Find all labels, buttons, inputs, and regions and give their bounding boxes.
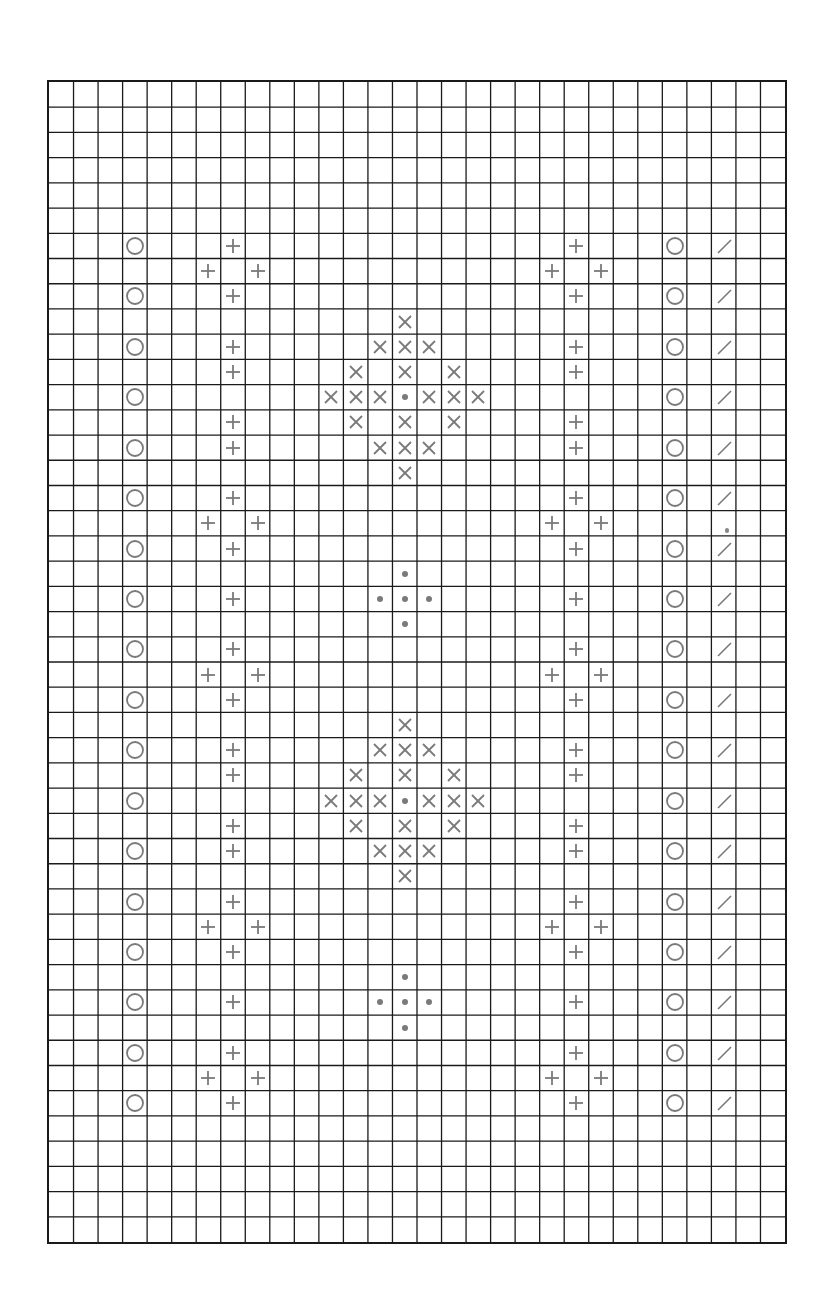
plus-icon	[564, 334, 589, 359]
circle-icon	[123, 485, 148, 510]
cross-icon	[392, 334, 417, 359]
cross-icon	[392, 309, 417, 334]
plus-icon	[564, 485, 589, 510]
plus-icon	[196, 662, 221, 687]
slash-icon	[711, 586, 736, 611]
plus-icon	[564, 738, 589, 763]
plus-icon	[245, 259, 270, 284]
circle-icon	[662, 637, 687, 662]
slash-icon	[711, 1091, 736, 1116]
circle-icon	[662, 1040, 687, 1065]
plus-icon	[540, 259, 565, 284]
slash-icon	[711, 435, 736, 460]
cross-icon	[392, 839, 417, 864]
plus-icon	[540, 1065, 565, 1090]
cross-icon	[417, 738, 442, 763]
slash-icon	[711, 334, 736, 359]
cross-icon	[392, 813, 417, 838]
circle-icon	[123, 536, 148, 561]
circle-icon	[123, 889, 148, 914]
plus-icon	[540, 662, 565, 687]
dot-icon	[392, 990, 417, 1015]
slash-icon	[711, 284, 736, 309]
dot-icon	[392, 788, 417, 813]
circle-icon	[123, 738, 148, 763]
plus-icon	[221, 889, 246, 914]
slash-icon	[711, 939, 736, 964]
plus-icon	[564, 1091, 589, 1116]
cross-icon	[368, 385, 393, 410]
slash-icon	[711, 738, 736, 763]
dot-icon	[392, 586, 417, 611]
slash-icon	[711, 889, 736, 914]
cross-icon	[343, 385, 368, 410]
plus-icon	[564, 839, 589, 864]
plus-icon	[564, 410, 589, 435]
plus-icon	[564, 233, 589, 258]
plus-icon	[564, 1040, 589, 1065]
dot-icon	[392, 385, 417, 410]
circle-icon	[662, 284, 687, 309]
plus-icon	[221, 410, 246, 435]
cross-icon	[442, 813, 467, 838]
circle-icon	[123, 1040, 148, 1065]
cross-icon	[442, 788, 467, 813]
plus-icon	[564, 586, 589, 611]
circle-icon	[123, 990, 148, 1015]
cross-icon	[442, 410, 467, 435]
circle-icon	[123, 1091, 148, 1116]
slash-icon	[711, 839, 736, 864]
cross-icon	[343, 763, 368, 788]
circle-icon	[123, 334, 148, 359]
cross-icon	[343, 813, 368, 838]
plus-icon	[221, 763, 246, 788]
plus-icon	[540, 511, 565, 536]
cross-icon	[392, 410, 417, 435]
plus-icon	[221, 536, 246, 561]
circle-icon	[662, 788, 687, 813]
circle-icon	[123, 586, 148, 611]
circle-icon	[662, 536, 687, 561]
plus-icon	[221, 939, 246, 964]
cross-icon	[417, 334, 442, 359]
circle-icon	[662, 839, 687, 864]
plus-icon	[221, 284, 246, 309]
cross-icon	[392, 712, 417, 737]
plus-icon	[564, 763, 589, 788]
circle-icon	[123, 687, 148, 712]
plus-icon	[564, 687, 589, 712]
cross-icon	[442, 763, 467, 788]
cross-icon	[392, 738, 417, 763]
dot-icon	[392, 612, 417, 637]
plus-icon	[540, 914, 565, 939]
cross-icon	[466, 788, 491, 813]
circle-icon	[123, 637, 148, 662]
cross-icon	[368, 334, 393, 359]
cross-icon	[417, 385, 442, 410]
cross-icon	[392, 359, 417, 384]
dot-icon	[368, 586, 393, 611]
plus-icon	[564, 637, 589, 662]
plus-icon	[245, 662, 270, 687]
circle-icon	[662, 939, 687, 964]
circle-icon	[662, 687, 687, 712]
slash-icon	[711, 1040, 736, 1065]
plus-icon	[221, 839, 246, 864]
plus-icon	[589, 511, 614, 536]
cross-icon	[368, 788, 393, 813]
dot-icon	[392, 561, 417, 586]
circle-icon	[123, 788, 148, 813]
plus-icon	[245, 511, 270, 536]
circle-icon	[662, 233, 687, 258]
plus-icon	[221, 435, 246, 460]
circle-icon	[123, 284, 148, 309]
slash-icon	[711, 990, 736, 1015]
cross-icon	[442, 359, 467, 384]
plus-icon	[245, 914, 270, 939]
plus-icon	[564, 990, 589, 1015]
circle-icon	[662, 889, 687, 914]
plus-icon	[245, 1065, 270, 1090]
plus-icon	[589, 259, 614, 284]
cross-icon	[368, 738, 393, 763]
plus-icon	[564, 939, 589, 964]
